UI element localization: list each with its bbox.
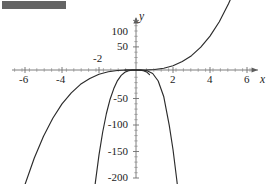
plot-canvas [0,0,271,184]
y-tick-label-neg150: -150 [93,146,128,157]
axis-arrowheads [133,17,258,73]
y-tick-label-neg200: -200 [93,172,128,183]
x-tick-label-neg6: -6 [19,74,28,85]
y-tick-label-neg100: -100 [93,119,128,130]
x-tick-label-pos6: 6 [244,74,250,85]
axes-group [12,18,258,178]
y-tick-label-50: 50 [103,41,128,52]
x-tick-label-neg2: -2 [93,53,102,64]
y-axis-name-label: y [139,11,144,23]
y-tick-label-neg50: -50 [99,93,128,104]
x-axis-name-label: x [260,74,265,86]
x-axis-arrow [252,67,259,72]
x-tick-label-neg4: -4 [56,74,65,85]
y-tick-label-100: 100 [103,26,128,37]
curve-descending-right [125,70,179,184]
x-tick-label-pos2: 2 [170,74,176,85]
x-tick-label-pos4: 4 [207,74,213,85]
figure-container: -6 -4 -2 2 4 6 100 50 -50 -100 -150 -200… [0,0,271,184]
